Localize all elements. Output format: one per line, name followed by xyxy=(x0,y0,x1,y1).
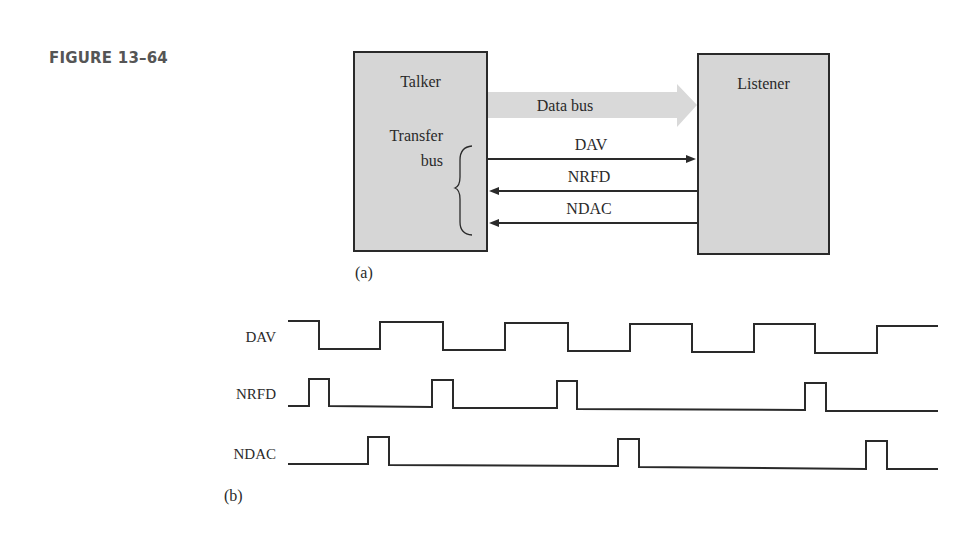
transfer-bus-brace-icon xyxy=(455,146,472,235)
dav-signal-label: DAV xyxy=(206,329,276,346)
figure-diagram: Data bus DAV NRFD NDAC xyxy=(0,0,977,544)
ndac-line-label: NDAC xyxy=(566,200,611,217)
ndac-waveform xyxy=(288,437,938,469)
nrfd-line-label: NRFD xyxy=(568,168,611,185)
ndac-signal-label: NDAC xyxy=(206,446,276,463)
part-b-label: (b) xyxy=(224,487,243,505)
data-bus-label: Data bus xyxy=(537,97,593,114)
nrfd-signal-label: NRFD xyxy=(206,386,276,403)
nrfd-waveform xyxy=(288,379,938,411)
part-a-label: (a) xyxy=(355,264,373,282)
dav-waveform xyxy=(288,321,938,353)
ndac-arrowhead-icon xyxy=(489,219,499,227)
dav-arrowhead-icon xyxy=(686,155,696,163)
dav-line-label: DAV xyxy=(575,136,608,153)
nrfd-arrowhead-icon xyxy=(489,187,499,195)
